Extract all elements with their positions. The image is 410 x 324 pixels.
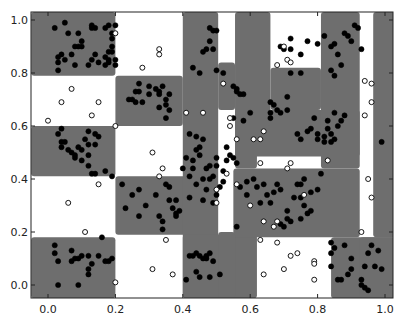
filled-point (248, 110, 253, 115)
hollow-point (163, 237, 168, 242)
filled-point (69, 259, 74, 264)
filled-point (221, 179, 226, 184)
filled-point (79, 44, 84, 49)
filled-point (62, 20, 67, 25)
filled-point (190, 158, 195, 163)
filled-point (89, 261, 94, 266)
hollow-point (140, 65, 145, 70)
hollow-point (362, 78, 367, 83)
filled-point (207, 176, 212, 181)
x-tick-label: 0.2 (107, 303, 125, 316)
filled-point (82, 137, 87, 142)
filled-point (345, 272, 350, 277)
filled-point (86, 267, 91, 272)
hollow-point (325, 158, 330, 163)
filled-point (325, 126, 330, 131)
filled-point (62, 57, 67, 62)
filled-point (190, 166, 195, 171)
y-tick-label: 0.8 (11, 67, 29, 80)
filled-point (62, 139, 67, 144)
filled-point (86, 253, 91, 258)
filled-point (59, 126, 64, 131)
filled-point (254, 184, 259, 189)
filled-point (332, 137, 337, 142)
hollow-point (288, 161, 293, 166)
hollow-point (113, 280, 118, 285)
filled-point (211, 47, 216, 52)
filled-point (147, 92, 152, 97)
filled-point (214, 163, 219, 168)
class-region (373, 12, 395, 237)
filled-point (96, 253, 101, 258)
filled-point (197, 145, 202, 150)
hollow-point (302, 192, 307, 197)
filled-point (379, 139, 384, 144)
filled-point (96, 60, 101, 65)
filled-point (318, 171, 323, 176)
filled-point (153, 192, 158, 197)
filled-point (56, 131, 61, 136)
hollow-point (251, 137, 256, 142)
filled-point (143, 203, 148, 208)
filled-point (89, 171, 94, 176)
filled-point (376, 248, 381, 253)
filled-point (335, 52, 340, 57)
filled-point (136, 214, 141, 219)
filled-point (99, 235, 104, 240)
filled-point (322, 134, 327, 139)
filled-point (187, 174, 192, 179)
filled-point (157, 105, 162, 110)
class-region (218, 232, 235, 298)
hollow-point (234, 137, 239, 142)
filled-point (163, 97, 168, 102)
y-tick-label: 1.0 (11, 14, 29, 27)
hollow-point (312, 277, 317, 282)
hollow-point (295, 251, 300, 256)
filled-point (298, 182, 303, 187)
filled-point (322, 33, 327, 38)
filled-point (268, 200, 273, 205)
filled-point (302, 176, 307, 181)
filled-point (335, 123, 340, 128)
filled-point (79, 158, 84, 163)
filled-point (167, 184, 172, 189)
filled-point (207, 163, 212, 168)
filled-point (366, 288, 371, 293)
filled-point (56, 68, 61, 73)
hollow-point (366, 177, 371, 182)
hollow-point (214, 200, 219, 205)
filled-point (362, 264, 367, 269)
filled-point (349, 256, 354, 261)
filled-point (167, 108, 172, 113)
filled-point (339, 62, 344, 67)
filled-point (56, 282, 61, 287)
filled-point (109, 256, 114, 261)
filled-point (123, 206, 128, 211)
filled-point (312, 115, 317, 120)
filled-point (345, 33, 350, 38)
filled-point (332, 73, 337, 78)
filled-point (288, 70, 293, 75)
filled-point (157, 214, 162, 219)
filled-point (332, 41, 337, 46)
filled-point (194, 182, 199, 187)
hollow-point (261, 219, 266, 224)
filled-point (72, 62, 77, 67)
filled-point (204, 47, 209, 52)
filled-point (298, 52, 303, 57)
decision-boundary-chart: 0.00.20.40.60.81.0 0.00.20.40.60.81.0 (0, 0, 410, 324)
hollow-point (59, 100, 64, 105)
filled-point (86, 129, 91, 134)
filled-point (355, 25, 360, 30)
filled-point (160, 219, 165, 224)
filled-point (76, 31, 81, 36)
filled-point (197, 70, 202, 75)
filled-point (69, 52, 74, 57)
filled-point (251, 176, 256, 181)
filled-point (285, 108, 290, 113)
filled-point (194, 269, 199, 274)
filled-point (133, 100, 138, 105)
hollow-point (113, 124, 118, 129)
filled-point (160, 227, 165, 232)
filled-point (187, 195, 192, 200)
